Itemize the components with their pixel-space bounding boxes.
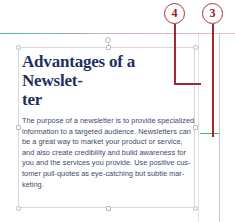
resize-handle-top-center[interactable] [106,45,111,50]
callout-badge-4[interactable]: 4 [164,3,185,24]
resize-handle-bottom-center[interactable] [106,206,111,211]
page-top-guide-line [0,33,235,34]
page-right-border [219,34,220,222]
body-line: The purpose of a newsletter is to provid… [22,116,188,127]
resize-handle-top-left[interactable] [16,45,21,50]
callout-badge-3[interactable]: 3 [202,3,223,24]
callout-4-leader-vertical [174,24,176,84]
resize-handle-bottom-left[interactable] [16,206,21,211]
body-line: tomer pull-quotes as eye-catching but su… [22,169,188,180]
resize-handle-bottom-right[interactable] [193,206,198,211]
resize-handle-middle-left[interactable] [16,125,21,130]
body-line: keting. [22,180,188,191]
page-inner-margin-border [198,34,199,222]
rotation-handle[interactable] [105,37,111,43]
body-line: information to a targeted audience. News… [22,127,188,138]
callout-3-leader-vertical [212,24,214,137]
resize-handle-top-right[interactable] [193,45,198,50]
callout-4-leader-horizontal [174,83,201,85]
document-title: Advantages of a Newslet- ter [22,52,192,109]
alignment-guide-line [200,133,219,134]
text-box-content[interactable]: Advantages of a Newslet- ter The purpose… [22,52,192,202]
document-body-paragraph: The purpose of a newsletter is to provid… [22,116,188,190]
resize-handle-middle-right[interactable] [193,125,198,130]
body-line: you and the services you provide. Use po… [22,158,188,169]
screenshot-root: Advantages of a Newslet- ter The purpose… [0,0,235,222]
body-line: be a great way to market your product or… [22,137,188,148]
title-line-1: Advantages of a Newslet- [22,52,135,90]
body-line: and also create credibility and build aw… [22,148,188,159]
title-line-2: ter [22,90,42,109]
